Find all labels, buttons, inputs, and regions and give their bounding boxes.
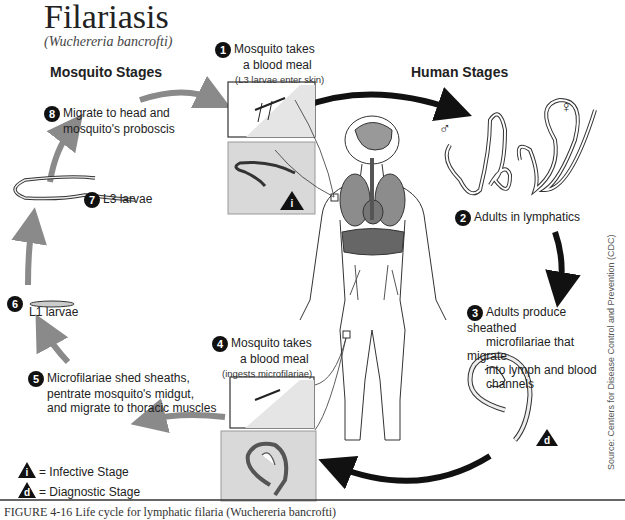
legend-diagnostic: = Diagnostic Stage <box>39 485 140 499</box>
human-stages-heading: Human Stages <box>411 64 508 80</box>
species-subtitle: (Wuchereria bancrofti) <box>44 34 172 50</box>
human-body <box>300 116 446 440</box>
mosquito-bite-panel-4 <box>230 377 314 428</box>
arrow-8-to-1 <box>140 93 215 101</box>
step-6: 6 <box>7 296 26 312</box>
svg-text:d: d <box>544 435 550 446</box>
source-credit: Source: Centers for Disease Control and … <box>606 234 616 470</box>
arrow-2-to-3 <box>555 232 562 290</box>
arrow-1-to-2 <box>300 94 455 110</box>
step-1: 1Mosquito takes a blood meal (L3 larvae … <box>215 42 335 87</box>
microfilaria-panel-d <box>221 431 316 501</box>
arrow-4-to-5 <box>148 415 225 420</box>
step-2: 2Adults in lymphatics <box>455 210 580 226</box>
step-7: 7L3 larvae <box>84 192 152 208</box>
step-4: 4Mosquito takes a blood meal (ingests mi… <box>212 336 332 381</box>
svg-text:i: i <box>26 467 29 478</box>
step-3: 3Adults produce sheathed microfilariae t… <box>467 305 617 391</box>
step-8: 8Migrate to head and mosquito's probosci… <box>44 106 194 136</box>
svg-text:d: d <box>24 487 30 498</box>
step-6-label: L1 larvae <box>29 305 78 319</box>
arrow-7-to-8 <box>50 128 72 182</box>
svg-text:i: i <box>291 198 294 209</box>
mosquito-stages-heading: Mosquito Stages <box>50 64 162 80</box>
arrow-6-to-7 <box>28 225 32 285</box>
step-5: 5Microfilariae shed sheaths, pentrate mo… <box>28 371 218 415</box>
female-symbol: ♀ <box>560 100 572 114</box>
mosquito-bite-panel-1 <box>228 82 315 137</box>
arrow-3-to-4 <box>335 456 490 481</box>
page-title: Filariasis <box>44 0 169 36</box>
larva-panel-i: i <box>228 142 315 214</box>
figure-caption: FIGURE 4-16 Life cycle for lymphatic fil… <box>4 505 336 520</box>
arrow-5-to-6 <box>44 330 68 362</box>
legend-infective: = Infective Stage <box>39 465 129 479</box>
male-symbol: ♂ <box>439 122 451 136</box>
